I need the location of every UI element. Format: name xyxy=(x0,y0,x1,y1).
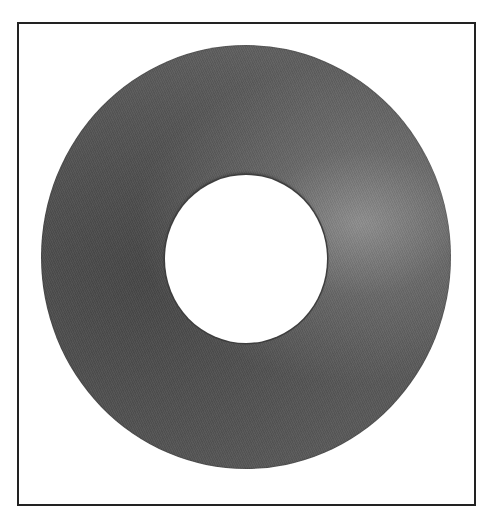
washer-center-hole xyxy=(165,175,327,343)
